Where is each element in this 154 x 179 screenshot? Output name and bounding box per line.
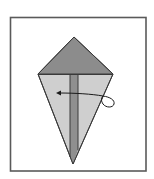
origami-diagram xyxy=(0,0,154,179)
center-strip xyxy=(70,74,78,164)
